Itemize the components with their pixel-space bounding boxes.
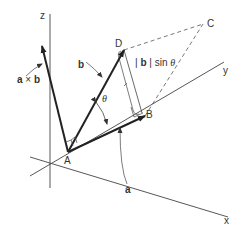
angle-theta-label: θ — [102, 94, 107, 104]
y-axis-label: y — [223, 66, 228, 76]
vector-a-label: a — [125, 185, 131, 195]
edge-d-c — [124, 24, 203, 50]
point-a-label: A — [64, 156, 71, 166]
angle-theta-arc — [96, 102, 107, 124]
cross-left: a — [17, 74, 23, 85]
x-axis-label: x — [224, 216, 229, 226]
vector-b-label: b — [78, 60, 84, 70]
sin-func: sin — [155, 57, 168, 68]
leader-a — [120, 128, 127, 184]
z-axis-label: z — [40, 11, 45, 21]
edge-b-c — [145, 24, 203, 116]
cross-product-label: a × b — [17, 75, 40, 85]
vector-a-cross-b — [42, 46, 68, 152]
leader-b — [86, 62, 102, 77]
cross-product-diagram: z y x D C B A a b a × b θ | b | sin θ — [0, 0, 236, 229]
diagram-graphics — [0, 0, 236, 229]
height-vec-b: b — [140, 57, 146, 68]
point-c-label: C — [207, 19, 214, 29]
cross-op: × — [25, 74, 31, 85]
point-b-label: B — [146, 110, 153, 120]
abs-open: | — [135, 57, 138, 68]
point-d-label: D — [115, 39, 122, 49]
height-theta: θ — [170, 57, 175, 68]
cross-right: b — [34, 74, 40, 85]
abs-close: | — [149, 57, 152, 68]
height-label: | b | sin θ — [135, 58, 175, 68]
